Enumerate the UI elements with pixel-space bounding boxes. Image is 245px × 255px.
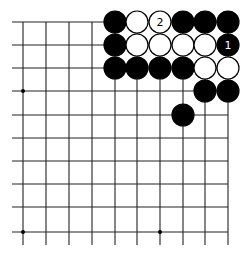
black-stone [194, 80, 216, 102]
black-stone [104, 34, 126, 56]
star-point [21, 230, 25, 234]
move-number-label: 2 [157, 16, 164, 29]
white-stone [126, 34, 148, 56]
black-stone [172, 104, 194, 126]
move-number-label: 1 [225, 39, 232, 52]
white-stone [149, 34, 171, 56]
black-stone [194, 11, 216, 33]
black-stone [172, 57, 194, 79]
white-stone [194, 57, 216, 79]
black-stone [126, 57, 148, 79]
white-stone [217, 57, 239, 79]
white-stone [172, 34, 194, 56]
black-stone [217, 80, 239, 102]
star-point [21, 89, 25, 93]
go-board: 21 [0, 0, 245, 255]
white-stone [194, 34, 216, 56]
star-point [158, 230, 162, 234]
black-stone [104, 11, 126, 33]
black-stone [104, 57, 126, 79]
black-stone [217, 11, 239, 33]
black-stone [149, 57, 171, 79]
black-stone [172, 11, 194, 33]
white-stone [126, 11, 148, 33]
